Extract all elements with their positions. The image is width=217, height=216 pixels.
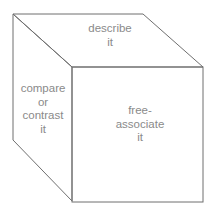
front-face-label: free- associate it [105, 104, 175, 145]
left-face-label: compare or contrast it [13, 82, 73, 136]
top-face-label: describe it [80, 22, 140, 49]
